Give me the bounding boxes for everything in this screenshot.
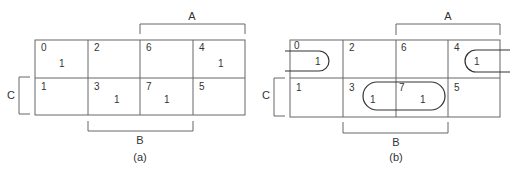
kmap-b-cell-index: 0 xyxy=(294,40,300,51)
kmap-a-bracket-b xyxy=(88,121,193,131)
kmap-b-cell-index: 7 xyxy=(399,82,405,93)
kmap-b-cell-index: 5 xyxy=(454,82,460,93)
kmap-a-cell-value: 1 xyxy=(114,94,120,105)
kmap-b-group-loop-left xyxy=(285,51,329,71)
kmap-a-cell-value: 1 xyxy=(218,58,224,69)
kmap-b-cell-index: 3 xyxy=(349,82,355,93)
kmap-b-label-c: C xyxy=(262,89,270,101)
kmap-b-cell-value: 1 xyxy=(315,56,321,67)
kmap-b: A B C 0 2 6 4 1 3 7 5 1 1 1 1 (b) xyxy=(262,10,510,163)
kmap-a-cell-index: 4 xyxy=(199,42,205,53)
kmap-b-label-b: B xyxy=(392,136,399,148)
kmap-b-group-loop-right xyxy=(465,50,510,72)
kmap-a-cell-index: 2 xyxy=(94,42,100,53)
kmap-b-bracket-c xyxy=(274,78,285,116)
kmap-b-cell-index: 6 xyxy=(401,42,407,53)
kmap-b-cell-index: 4 xyxy=(454,42,460,53)
kmap-b-cell-index: 2 xyxy=(349,42,355,53)
kmap-b-cell-index: 1 xyxy=(296,82,302,93)
kmap-a-cell-value: 1 xyxy=(59,58,65,69)
kmap-a-label-a: A xyxy=(188,10,196,22)
kmap-a-caption: (a) xyxy=(133,151,146,163)
kmap-b-bracket-b xyxy=(343,122,448,133)
kmap-b-bracket-a xyxy=(396,24,500,35)
kmap-a-cell-index: 1 xyxy=(41,81,47,92)
kmap-a-cell-index: 3 xyxy=(94,81,100,92)
karnaugh-maps-figure: A B C 0 2 6 4 1 3 7 5 1 1 1 1 (a) A B xyxy=(0,0,520,171)
kmap-b-cell-value: 1 xyxy=(420,94,426,105)
kmap-a-cell-index: 0 xyxy=(41,42,47,53)
kmap-b-caption: (b) xyxy=(389,151,402,163)
kmap-a: A B C 0 2 6 4 1 3 7 5 1 1 1 1 (a) xyxy=(7,10,245,163)
kmap-a-cell-index: 7 xyxy=(146,81,152,92)
kmap-a-bracket-a xyxy=(140,24,245,34)
kmap-a-label-b: B xyxy=(136,134,143,146)
kmap-b-cell-value: 1 xyxy=(370,94,376,105)
kmap-a-label-c: C xyxy=(7,89,15,101)
kmap-b-cell-value: 1 xyxy=(474,56,480,67)
kmap-a-cell-index: 5 xyxy=(199,81,205,92)
kmap-a-bracket-c xyxy=(19,77,30,114)
kmap-a-cell-index: 6 xyxy=(146,42,152,53)
kmap-a-cell-value: 1 xyxy=(164,94,170,105)
kmap-b-label-a: A xyxy=(444,10,452,22)
